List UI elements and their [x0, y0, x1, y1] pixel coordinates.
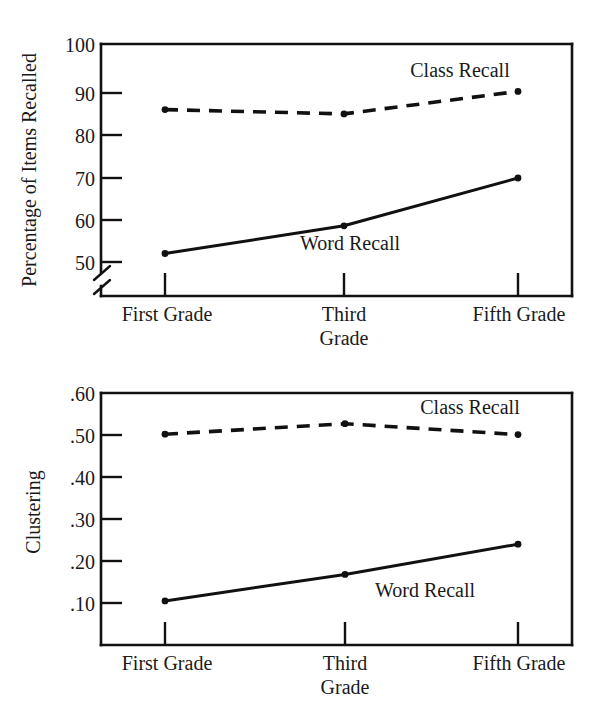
- figure-two-line-charts: 100 90 80 70 60 50 Percentage of Items R…: [0, 0, 600, 725]
- top-point-class-third: [341, 111, 348, 118]
- top-xtick-label-fifth: Fifth Grade: [473, 303, 566, 325]
- bottom-xtick-label-first: First Grade: [122, 652, 213, 674]
- top-ytick-label-60: 60: [75, 210, 95, 232]
- top-point-word-fifth: [515, 175, 522, 182]
- top-point-class-fifth: [515, 88, 522, 95]
- top-point-class-first: [162, 106, 169, 113]
- top-ytick-label-80: 80: [75, 125, 95, 147]
- bottom-point-class-third: [342, 420, 349, 427]
- top-xtick-label-third: Third: [322, 303, 366, 325]
- bottom-series-class-recall-line: [165, 424, 518, 435]
- top-chart-axes: [101, 44, 572, 296]
- top-point-word-third: [341, 222, 348, 229]
- top-xtick-label-first: First Grade: [122, 303, 213, 325]
- bottom-xtick-label-third: Third: [323, 652, 367, 674]
- top-label-word-recall: Word Recall: [300, 232, 400, 254]
- bottom-point-word-fifth: [515, 541, 522, 548]
- bottom-ytick-label-010: .10: [70, 593, 95, 615]
- bottom-ytick-label-020: .20: [70, 551, 95, 573]
- bottom-point-class-fifth: [515, 431, 522, 438]
- top-ytick-label-70: 70: [75, 168, 95, 190]
- chart-panel-percentage-recalled: 100 90 80 70 60 50 Percentage of Items R…: [0, 0, 600, 362]
- top-ytick-label-50: 50: [75, 252, 95, 274]
- bottom-y-ticks: [101, 435, 122, 603]
- top-point-word-first: [162, 250, 169, 257]
- bottom-point-class-first: [162, 431, 169, 438]
- bottom-x-ticks: [165, 622, 518, 645]
- top-series-class-recall-line: [165, 91, 518, 114]
- bottom-y-axis-title: Clustering: [22, 470, 45, 553]
- bottom-xtick-label-fifth: Fifth Grade: [473, 652, 566, 674]
- top-chart-svg: 100 90 80 70 60 50 Percentage of Items R…: [0, 0, 600, 362]
- bottom-chart-axes: [101, 393, 572, 645]
- top-x-ticks: [165, 273, 518, 296]
- top-label-class-recall: Class Recall: [410, 59, 510, 81]
- bottom-ytick-label-060: .60: [70, 383, 95, 405]
- bottom-ytick-label-030: .30: [70, 509, 95, 531]
- bottom-x-axis-sublabel: Grade: [321, 676, 370, 698]
- top-y-ticks: [101, 93, 122, 262]
- bottom-ytick-label-050: .50: [70, 425, 95, 447]
- bottom-series-class-recall: [162, 420, 522, 438]
- top-ytick-label-90: 90: [75, 83, 95, 105]
- top-x-axis-sublabel: Grade: [320, 327, 369, 349]
- bottom-label-class-recall: Class Recall: [420, 396, 520, 418]
- top-y-axis-title: Percentage of Items Recalled: [18, 53, 41, 287]
- top-ytick-label-100: 100: [65, 34, 95, 56]
- bottom-ytick-label-040: .40: [70, 467, 95, 489]
- bottom-label-word-recall: Word Recall: [375, 579, 475, 601]
- bottom-chart-svg: .60 .50 .40 .30 .20 .10 Clustering First…: [0, 362, 600, 725]
- bottom-point-word-third: [342, 571, 349, 578]
- top-series-class-recall: [162, 88, 522, 117]
- bottom-point-word-first: [162, 598, 169, 605]
- chart-panel-clustering: .60 .50 .40 .30 .20 .10 Clustering First…: [0, 362, 600, 725]
